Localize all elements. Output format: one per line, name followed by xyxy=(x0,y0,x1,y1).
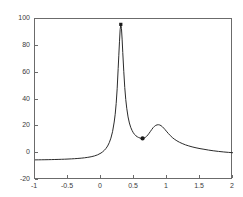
plot-axes-box xyxy=(34,18,232,179)
figure-canvas: -20020406080100 -1-0.500.511.52 xyxy=(0,0,243,197)
y-tick-mark xyxy=(35,125,38,126)
x-tick-label: 1.5 xyxy=(194,182,204,190)
x-tick-mark xyxy=(67,175,68,178)
x-tick-mark xyxy=(100,175,101,178)
peak-marker xyxy=(119,23,122,26)
x-tick-label: 2 xyxy=(230,182,234,190)
y-tick-mark xyxy=(35,45,38,46)
y-tick-label: 80 xyxy=(22,41,30,49)
y-tick-label: 60 xyxy=(22,68,30,76)
x-tick-mark xyxy=(232,175,233,178)
x-tick-label: 0.5 xyxy=(128,182,138,190)
y-tick-mark xyxy=(35,152,38,153)
y-tick-mark xyxy=(35,99,38,100)
y-tick-mark xyxy=(35,179,38,180)
y-tick-label: 0 xyxy=(26,148,30,156)
x-tick-label: -1 xyxy=(31,182,37,190)
y-tick-mark xyxy=(35,18,38,19)
x-tick-mark xyxy=(166,175,167,178)
y-tick-mark xyxy=(35,72,38,73)
data-markers xyxy=(119,23,144,141)
x-tick-label: 1 xyxy=(164,182,168,190)
y-tick-label: 100 xyxy=(18,14,30,22)
valley-marker xyxy=(140,136,144,140)
x-tick-label: -0.5 xyxy=(61,182,73,190)
y-tick-label: -20 xyxy=(20,175,30,183)
x-tick-mark xyxy=(199,175,200,178)
x-tick-mark xyxy=(34,175,35,178)
plot-curve-svg xyxy=(35,19,233,180)
x-tick-label: 0 xyxy=(98,182,102,190)
x-tick-mark xyxy=(133,175,134,178)
y-tick-label: 20 xyxy=(22,121,30,129)
y-tick-label: 40 xyxy=(22,95,30,103)
data-curve xyxy=(35,24,233,160)
